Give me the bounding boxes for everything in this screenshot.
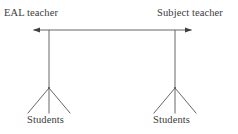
arrowhead-left-icon xyxy=(33,27,40,32)
diagram-canvas: EAL teacher Subject teacher Students Stu… xyxy=(0,0,238,134)
label-subject-teacher: Subject teacher xyxy=(157,7,223,19)
label-eal-teacher: EAL teacher xyxy=(4,7,58,19)
arrowhead-right-icon xyxy=(185,27,192,32)
eal-branch-left xyxy=(28,88,49,113)
subject-branch-left xyxy=(154,88,175,113)
subject-branch-right xyxy=(175,88,196,113)
label-students-left: Students xyxy=(27,114,64,126)
subject-branch-junction xyxy=(174,87,176,89)
eal-branch-junction xyxy=(48,87,50,89)
label-students-right: Students xyxy=(153,114,190,126)
eal-branch-right xyxy=(49,88,70,113)
